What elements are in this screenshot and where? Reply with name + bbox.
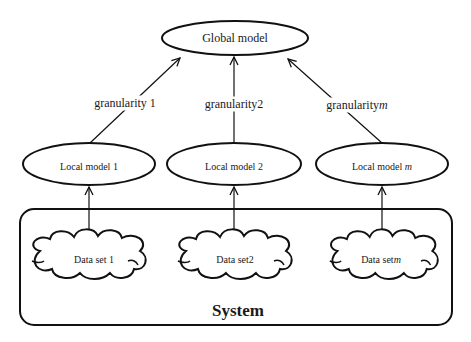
data-set-2-label: Data set2 <box>216 254 254 265</box>
granularity-m-label: granularitym <box>324 98 389 113</box>
local-model-1-label: Local model 1 <box>60 161 118 172</box>
data-set-1-text: Data set 1 <box>74 254 114 265</box>
granularity-m-suffix: m <box>379 98 388 112</box>
local-model-m-suffix: m <box>405 161 412 172</box>
data-set-m-label: Data setm <box>361 254 401 265</box>
local-model-2-label: Local model 2 <box>205 161 263 172</box>
local-model-2-text: Local model 2 <box>205 161 263 172</box>
local-model-m-text: Local model <box>352 161 405 172</box>
granularity-2-label: granularity2 <box>203 97 266 112</box>
granularity-2-text: granularity2 <box>205 97 264 111</box>
local-model-1-text: Local model 1 <box>60 161 118 172</box>
granularity-1-text: granularity 1 <box>94 96 156 110</box>
data-set-m-suffix: m <box>394 254 401 265</box>
global-model-label: Global model <box>202 31 268 46</box>
data-set-m-text: Data set <box>361 254 394 265</box>
system-label: System <box>212 301 264 321</box>
local-model-m-label: Local model m <box>352 161 412 172</box>
granularity-1-label: granularity 1 <box>92 96 158 111</box>
data-set-1-label: Data set 1 <box>74 254 114 265</box>
granularity-m-text: granularity <box>326 98 379 112</box>
data-set-2-text: Data set2 <box>216 254 254 265</box>
